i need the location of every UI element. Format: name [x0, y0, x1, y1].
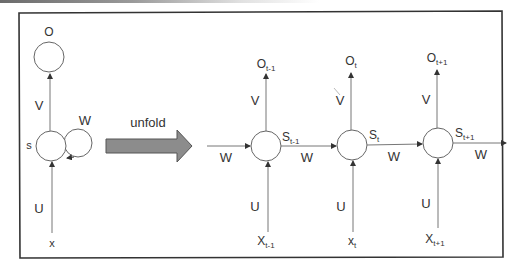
step-t-plus-1: Ot+1 V St+1 W U Xt+1 — [421, 51, 506, 248]
w-label: W — [301, 150, 314, 165]
hidden-node — [337, 130, 367, 160]
w-arrow — [367, 144, 422, 145]
recurrent-loop-arrow — [67, 157, 74, 158]
step-t: Ot V St W U xt — [334, 54, 422, 250]
w-label: W — [475, 147, 488, 162]
input-label: Xt-1 — [257, 234, 275, 250]
output-label: Ot-1 — [257, 57, 276, 73]
state-label: St — [369, 128, 380, 144]
v-label: V — [251, 93, 260, 108]
u-label: U — [250, 199, 259, 214]
folded-w-label: W — [79, 113, 92, 128]
v-label: V — [336, 93, 345, 108]
output-label: Ot — [345, 54, 357, 70]
v-label: V — [422, 92, 431, 107]
u-label: U — [421, 196, 430, 211]
step-t-minus-1: Ot-1 V St-1 W U Xt-1 — [250, 57, 336, 250]
unfold-label: unfold — [130, 115, 165, 130]
recurrent-loop — [64, 129, 92, 157]
folded-hidden-node — [36, 131, 66, 161]
w-label: W — [388, 149, 401, 164]
unfolded-network: W Ot-1 V St-1 W U Xt-1 Ot V St W U xt — [207, 51, 506, 250]
state-label: St+1 — [455, 126, 475, 142]
u-label: U — [336, 199, 345, 214]
input-label: xt — [348, 234, 357, 250]
unfold-arrow-icon — [106, 130, 192, 162]
folded-input-label: x — [49, 237, 55, 249]
unfold-arrow: unfold — [106, 115, 192, 162]
hidden-node — [423, 128, 453, 158]
folded-v-label: V — [35, 98, 44, 113]
folded-output-label: O — [44, 25, 53, 39]
hidden-node — [251, 131, 281, 161]
folded-network: O V W s U x — [26, 25, 92, 249]
folded-u-label: U — [34, 201, 43, 216]
folded-hidden-label: s — [26, 139, 32, 151]
input-label: Xt+1 — [425, 232, 445, 248]
rnn-diagram: O V W s U x unfold W Ot-1 V St-1 W U — [0, 0, 532, 267]
folded-output-node — [34, 42, 64, 72]
state-label: St-1 — [282, 130, 300, 146]
incoming-w-label: W — [220, 150, 233, 165]
output-label: Ot+1 — [427, 51, 448, 67]
